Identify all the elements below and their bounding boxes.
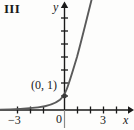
y-axis-label: y bbox=[53, 1, 58, 13]
x-tick-label-negative-three: −3 bbox=[8, 114, 21, 126]
point-annotation-label: (0, 1) bbox=[31, 79, 57, 91]
panel-label: III bbox=[4, 2, 20, 15]
exponential-graph-figure: III y x 0 −3 3 (0, 1) bbox=[0, 0, 134, 130]
x-axis-arrow-icon bbox=[128, 106, 134, 114]
y-axis-arrow-icon bbox=[61, 2, 68, 9]
coordinate-plane bbox=[0, 0, 134, 130]
x-tick-label-positive-three: 3 bbox=[100, 114, 106, 126]
exponential-curve bbox=[0, 0, 92, 110]
point-marker-0-1 bbox=[62, 94, 67, 99]
x-axis-label: x bbox=[123, 114, 128, 126]
origin-label: 0 bbox=[56, 113, 62, 125]
